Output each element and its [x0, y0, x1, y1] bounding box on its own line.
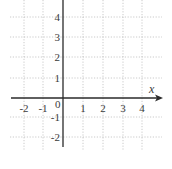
x-axis-label: x [148, 82, 155, 96]
axes [11, 0, 163, 147]
coordinate-plane: x 0 -2-112344321-1-2 [0, 0, 172, 169]
x-tick-label: -2 [19, 102, 28, 114]
y-tick-label: -2 [51, 131, 60, 143]
y-tick-label: 1 [55, 72, 61, 84]
x-tick-label: -1 [38, 102, 47, 114]
origin-label: 0 [55, 98, 61, 110]
x-tick-label: 2 [100, 102, 106, 114]
x-tick-label: 1 [80, 102, 86, 114]
y-tick-label: -1 [51, 111, 60, 123]
y-tick-label: 4 [55, 11, 61, 23]
x-tick-label: 3 [120, 102, 126, 114]
tick-labels: x 0 -2-112344321-1-2 [19, 11, 155, 143]
x-tick-label: 4 [139, 102, 145, 114]
y-tick-label: 2 [55, 51, 61, 63]
y-tick-label: 3 [55, 31, 61, 43]
grid [10, 0, 162, 151]
